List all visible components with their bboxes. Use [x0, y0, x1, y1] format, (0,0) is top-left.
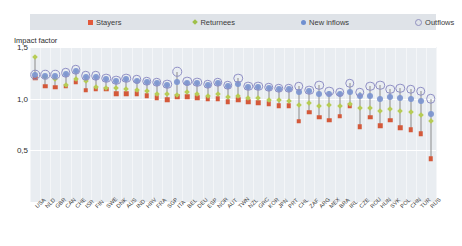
new-inflows-marker[interactable]: [347, 89, 353, 95]
outflows-marker[interactable]: [40, 70, 50, 80]
outflows-marker[interactable]: [183, 76, 193, 86]
returnees-marker[interactable]: [32, 55, 38, 61]
stayers-marker[interactable]: [317, 115, 322, 120]
stayers-marker[interactable]: [165, 97, 170, 102]
new-inflows-marker[interactable]: [367, 93, 373, 99]
returnees-marker[interactable]: [164, 91, 170, 97]
vertical-gridline: [81, 47, 82, 202]
new-inflows-marker[interactable]: [377, 96, 383, 102]
outflows-marker[interactable]: [365, 82, 375, 92]
new-inflows-marker[interactable]: [387, 94, 393, 100]
legend-item-new-inflows[interactable]: New inflows: [301, 18, 349, 27]
stayers-marker[interactable]: [297, 119, 302, 124]
outflows-marker[interactable]: [162, 79, 172, 89]
stayers-marker[interactable]: [226, 100, 231, 105]
stayers-marker[interactable]: [358, 124, 363, 129]
outflows-marker[interactable]: [233, 73, 243, 83]
outflows-marker[interactable]: [345, 78, 355, 88]
returnees-marker[interactable]: [387, 106, 393, 112]
returnees-marker[interactable]: [337, 103, 343, 109]
outflows-marker[interactable]: [264, 83, 274, 93]
stayers-marker[interactable]: [429, 156, 434, 161]
outflows-marker[interactable]: [304, 86, 314, 96]
returnees-marker[interactable]: [418, 112, 424, 118]
outflows-marker[interactable]: [375, 80, 385, 90]
outflows-marker[interactable]: [274, 84, 284, 94]
outflows-marker[interactable]: [406, 85, 416, 95]
new-inflows-marker[interactable]: [174, 79, 180, 85]
stayers-marker[interactable]: [408, 127, 413, 132]
outflows-marker[interactable]: [142, 76, 152, 86]
stayers-marker[interactable]: [256, 101, 261, 106]
outflows-marker[interactable]: [213, 77, 223, 87]
returnees-marker[interactable]: [377, 108, 383, 114]
new-inflows-marker[interactable]: [428, 111, 434, 117]
stayers-marker[interactable]: [327, 118, 332, 123]
stayers-marker[interactable]: [84, 88, 89, 93]
vertical-gridline: [294, 47, 295, 202]
outflows-marker[interactable]: [426, 94, 436, 104]
stayers-marker[interactable]: [307, 110, 312, 115]
outflows-marker[interactable]: [193, 77, 203, 87]
outflows-marker[interactable]: [416, 87, 426, 97]
outflows-marker[interactable]: [294, 82, 304, 92]
outflows-marker[interactable]: [355, 88, 365, 98]
vertical-gridline: [284, 47, 285, 202]
stayers-marker[interactable]: [287, 104, 292, 109]
legend-item-outflows[interactable]: Outflows: [415, 18, 454, 27]
new-inflows-marker[interactable]: [316, 91, 322, 97]
outflows-marker[interactable]: [122, 73, 132, 83]
new-inflows-marker[interactable]: [418, 98, 424, 104]
outflows-marker[interactable]: [152, 77, 162, 87]
stayers-marker[interactable]: [124, 91, 129, 96]
outflows-marker[interactable]: [396, 84, 406, 94]
new-inflows-marker[interactable]: [397, 95, 403, 101]
returnees-marker[interactable]: [428, 119, 434, 125]
outflows-marker[interactable]: [335, 88, 345, 98]
returnees-marker[interactable]: [327, 102, 333, 108]
new-inflows-marker[interactable]: [408, 96, 414, 102]
stayers-marker[interactable]: [398, 125, 403, 130]
outflows-marker[interactable]: [30, 70, 40, 80]
outflows-marker[interactable]: [51, 70, 61, 80]
returnees-marker[interactable]: [357, 105, 363, 111]
stayers-marker[interactable]: [53, 85, 58, 90]
returnees-marker[interactable]: [398, 108, 404, 114]
vertical-gridline: [192, 47, 193, 202]
legend-item-stayers[interactable]: Stayers: [88, 18, 121, 27]
stayers-marker[interactable]: [419, 132, 424, 137]
stayers-marker[interactable]: [43, 84, 48, 89]
returnees-marker[interactable]: [408, 109, 414, 115]
returnees-marker[interactable]: [306, 100, 312, 106]
stayers-marker[interactable]: [368, 115, 373, 120]
outflows-marker[interactable]: [223, 80, 233, 90]
stayers-marker[interactable]: [216, 96, 221, 101]
stayers-marker[interactable]: [114, 91, 119, 96]
outflows-marker[interactable]: [203, 79, 213, 89]
legend-item-returnees[interactable]: Returnees: [193, 18, 235, 27]
outflows-marker[interactable]: [325, 87, 335, 97]
stayers-marker[interactable]: [185, 94, 190, 99]
outflows-marker[interactable]: [284, 84, 294, 94]
stayers-marker[interactable]: [388, 118, 393, 123]
outflows-marker[interactable]: [101, 73, 111, 83]
outflows-marker[interactable]: [91, 71, 101, 81]
connector-line: [380, 85, 381, 125]
returnees-marker[interactable]: [296, 102, 302, 108]
stayers-marker[interactable]: [378, 123, 383, 128]
stayers-marker[interactable]: [337, 114, 342, 119]
returnees-marker[interactable]: [367, 105, 373, 111]
outflows-marker[interactable]: [386, 85, 396, 95]
outflows-marker[interactable]: [71, 65, 81, 75]
outflows-marker[interactable]: [315, 80, 325, 90]
stayers-marker[interactable]: [276, 104, 281, 109]
outflows-marker[interactable]: [61, 68, 71, 78]
outflows-marker[interactable]: [132, 74, 142, 84]
vertical-gridline: [111, 47, 112, 202]
outflows-marker[interactable]: [112, 75, 122, 85]
outflows-marker[interactable]: [243, 82, 253, 92]
outflows-marker[interactable]: [81, 71, 91, 81]
returnees-marker[interactable]: [316, 103, 322, 109]
outflows-marker[interactable]: [172, 67, 182, 77]
outflows-marker[interactable]: [254, 82, 264, 92]
